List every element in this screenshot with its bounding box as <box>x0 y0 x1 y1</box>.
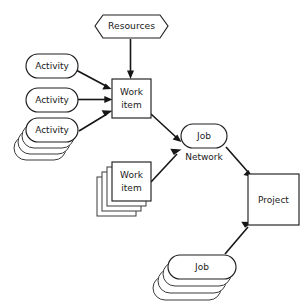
node-resources[interactable]: Resources <box>95 15 168 38</box>
node-work-item-1-label-line-2: item <box>121 100 141 110</box>
node-job-2-stack[interactable]: Job <box>153 255 236 300</box>
node-activity-3-stack[interactable]: Activity <box>14 118 78 160</box>
node-work-item-1-label-line-1: Work <box>120 87 144 97</box>
node-activity-2[interactable]: Activity <box>26 88 78 112</box>
diagram-svg: Resources Activity Activity Activity Wor… <box>0 0 307 308</box>
edge-job-to-project <box>226 147 253 177</box>
node-work-item-1[interactable]: Work item <box>112 79 151 118</box>
diagram-canvas: Resources Activity Activity Activity Wor… <box>0 0 307 308</box>
node-activity-2-label: Activity <box>35 95 69 105</box>
edge-resources-to-work-item <box>127 39 134 79</box>
node-project[interactable]: Project <box>248 174 299 225</box>
node-activity-3-label: Activity <box>35 125 69 135</box>
node-work-item-2-label-line-1: Work <box>120 170 144 180</box>
node-activity-1-label: Activity <box>35 61 69 71</box>
node-work-item-2-label-line-2: item <box>121 183 141 193</box>
node-job-2-label: Job <box>194 262 209 272</box>
node-job-1[interactable]: Job <box>181 124 227 148</box>
edge-job-stack-to-project <box>225 222 253 254</box>
node-resources-label: Resources <box>108 20 155 31</box>
node-work-item-2-stack[interactable]: Work item <box>97 162 151 216</box>
edge-work-item-stack-to-job <box>151 149 182 182</box>
job-network-label: Network <box>185 152 223 162</box>
node-job-1-label: Job <box>196 131 211 141</box>
edge-activity-3-to-work-item <box>79 110 113 131</box>
node-project-label: Project <box>258 195 289 205</box>
edge-activity-2-to-work-item <box>77 96 113 103</box>
edge-activity-1-to-work-item <box>76 70 112 90</box>
edge-work-item-to-job <box>151 114 182 142</box>
node-activity-1[interactable]: Activity <box>26 54 78 78</box>
